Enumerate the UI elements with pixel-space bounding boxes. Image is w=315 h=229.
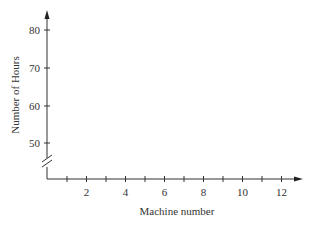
y-tick-label-80: 80 [29, 24, 41, 36]
chart-canvas: 80 70 60 50 2 4 6 8 10 12 Machine number… [0, 0, 315, 229]
x-tick-label-12: 12 [276, 186, 287, 198]
x-tick-label-10: 10 [237, 186, 249, 198]
y-tick-label-50: 50 [29, 137, 41, 149]
x-axis-arrow-icon [294, 177, 303, 182]
x-tick-label-6: 6 [162, 186, 168, 198]
y-axis-arrow-icon [45, 10, 50, 19]
y-axis-title: Number of Hours [9, 56, 21, 134]
y-tick-label-70: 70 [29, 62, 41, 74]
x-tick-label-2: 2 [84, 186, 90, 198]
y-tick-label-60: 60 [29, 100, 41, 112]
x-tick-label-4: 4 [123, 186, 129, 198]
x-axis-title: Machine number [140, 205, 215, 217]
x-tick-label-8: 8 [201, 186, 207, 198]
